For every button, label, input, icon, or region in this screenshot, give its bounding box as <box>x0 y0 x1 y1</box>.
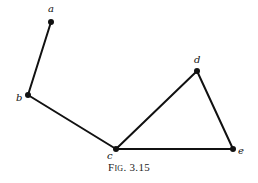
figure-caption: Fig. 3.15 <box>0 161 258 173</box>
node-label-c: c <box>107 150 113 161</box>
edge-d-e <box>197 71 233 149</box>
node-c <box>113 146 119 152</box>
node-d <box>194 68 200 74</box>
graph-diagram: abcde <box>0 0 258 183</box>
node-e <box>230 146 236 152</box>
node-b <box>25 92 31 98</box>
caption-number: 3.15 <box>130 161 150 173</box>
node-label-d: d <box>194 54 200 65</box>
node-label-a: a <box>48 3 54 14</box>
caption-prefix: Fig. <box>108 161 127 173</box>
edge-a-b <box>28 22 51 95</box>
node-a <box>48 19 54 25</box>
edges <box>28 22 233 149</box>
node-label-e: e <box>238 145 244 156</box>
node-label-b: b <box>16 92 22 103</box>
edge-c-d <box>116 71 197 149</box>
edge-b-c <box>28 95 116 149</box>
